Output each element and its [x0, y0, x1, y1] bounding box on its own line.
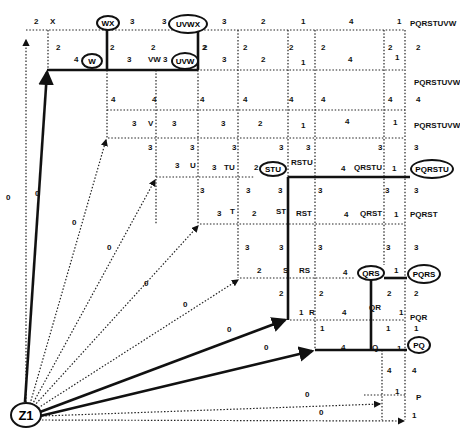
edge-label: 3: [222, 18, 226, 26]
edge-label: QR: [369, 304, 381, 312]
edge-label: 3: [222, 56, 226, 64]
edge-label: 3: [414, 144, 418, 152]
edge-label: 3: [190, 144, 194, 152]
edge-label: 4: [74, 56, 78, 64]
edge-label: 3: [175, 162, 179, 170]
edge-label: 1: [301, 18, 305, 26]
edge-label: 2: [203, 44, 207, 52]
solid-path: [25, 30, 410, 416]
edge-label: 3: [278, 187, 282, 195]
edge-label: RSTU: [291, 159, 313, 167]
edge-label: 1: [301, 59, 305, 67]
edge-label: 3: [127, 56, 131, 64]
edge-label: 4: [345, 118, 349, 126]
edge-label: 4: [243, 96, 247, 104]
edge-label: 0: [264, 344, 268, 352]
edge-label: 2: [257, 267, 261, 275]
edge-label: 1: [392, 165, 396, 173]
edge-label: PQRSTUVW: [414, 122, 460, 130]
edge-label: S: [283, 267, 288, 275]
node-pqrstu: PQRSTU: [410, 159, 454, 179]
edge-label: 2: [321, 44, 325, 52]
edge-label: 3: [414, 187, 418, 195]
edge-label: VW: [148, 56, 161, 64]
node-uvw: UVW: [171, 52, 199, 70]
node-wx: WX: [96, 15, 120, 31]
edge-label: 4: [348, 56, 352, 64]
dotted-grid: [26, 30, 405, 421]
edge-label: 2: [110, 44, 114, 52]
edge-label: 1: [299, 309, 303, 317]
edge-label: 2: [279, 290, 283, 298]
edge-label: 2: [34, 18, 38, 26]
edge-label: 2: [151, 44, 155, 52]
edge-label: 0: [72, 219, 76, 227]
edge-label: 2: [289, 44, 293, 52]
edge-label: 2: [388, 44, 392, 52]
edge-label: 2: [261, 18, 265, 26]
edge-label: 3: [279, 244, 283, 252]
edge-label: 3: [130, 18, 134, 26]
edge-label: 2: [254, 164, 258, 172]
node-stu: STU: [259, 161, 287, 177]
edge-label: 3: [245, 244, 249, 252]
edge-label: U: [190, 162, 196, 170]
edge-label: 1: [397, 18, 401, 26]
edge-label: 2: [261, 56, 265, 64]
edge-label: 3: [378, 144, 382, 152]
edge-label: 3: [279, 144, 283, 152]
edge-label: ST: [276, 208, 286, 216]
edge-label: 3: [221, 120, 225, 128]
edge-label: 4: [341, 165, 345, 173]
edge-label: 2: [387, 290, 391, 298]
edge-label: 2: [319, 290, 323, 298]
edge-label: RS: [299, 267, 310, 275]
edge-label: 4: [388, 96, 392, 104]
edge-label: 0: [305, 391, 309, 399]
node-z1: Z1: [10, 402, 42, 428]
edge-label: 2: [416, 44, 420, 52]
edge-label: 3: [306, 144, 310, 152]
edge-label: 4: [416, 96, 420, 104]
edge-label: 2: [258, 120, 262, 128]
edge-label: V: [148, 120, 153, 128]
edge-label: 3: [217, 210, 221, 218]
edge-label: PQRSTUVW: [414, 79, 460, 87]
node-pqrs: PQRS: [407, 264, 441, 284]
edge-label: T: [230, 208, 235, 216]
edge-label: 3: [232, 144, 236, 152]
edge-label: Q: [372, 344, 378, 352]
edge-label: 3: [148, 144, 152, 152]
edge-label: 4: [349, 18, 353, 26]
edge-label: 4: [152, 96, 156, 104]
edge-label: 1: [301, 122, 305, 130]
edge-label: PQRSTUVW: [410, 20, 456, 28]
edge-label: 4: [341, 344, 345, 352]
edge-label: 1: [395, 388, 399, 396]
edge-label: 2: [252, 210, 256, 218]
edge-label: TU: [224, 164, 235, 172]
edge-label: 1: [394, 211, 398, 219]
edge-label: 2: [414, 290, 418, 298]
edge-label: X: [50, 18, 55, 26]
edge-label: 0: [319, 409, 323, 417]
edge-label: 1: [320, 325, 324, 333]
edge-label: P: [416, 394, 421, 402]
edge-label: 0: [144, 280, 148, 288]
edge-label: 3: [132, 120, 136, 128]
edge-label: 4: [344, 211, 348, 219]
edge-label: 2: [243, 44, 247, 52]
edge-label: 3: [172, 120, 176, 128]
edge-label: PQRST: [410, 211, 438, 219]
edge-label: 1: [397, 345, 401, 353]
edge-label: 1: [412, 412, 416, 420]
edge-label: 4: [342, 309, 346, 317]
edge-label: 3: [318, 244, 322, 252]
node-qrs: QRS: [357, 265, 385, 281]
edge-label: 4: [387, 367, 391, 375]
edge-label: 0: [183, 301, 187, 309]
edge-label: 1: [394, 267, 398, 275]
edge-label: 3: [386, 244, 390, 252]
edge-label: 4: [321, 96, 325, 104]
